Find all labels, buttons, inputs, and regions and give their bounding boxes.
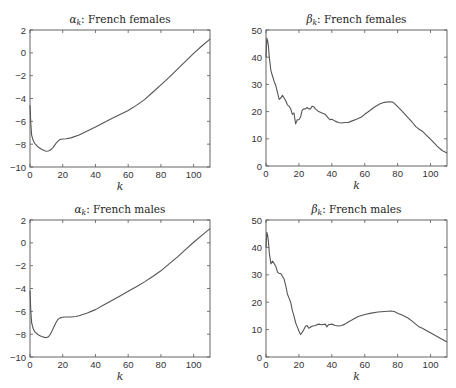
x-axis-label: k [353, 179, 360, 192]
series-line-beta-k [266, 232, 447, 342]
x-tick-label: 20 [57, 359, 68, 370]
series-line-alpha-k [30, 229, 210, 338]
chart-title: αk: French males [75, 203, 166, 217]
y-tick-label: 2 [21, 25, 26, 36]
axes-frame [30, 220, 210, 357]
x-tick-label: 80 [392, 359, 403, 370]
y-tick-label: 40 [251, 52, 262, 63]
y-tick-label: 20 [251, 106, 262, 117]
chart-title: βk: French females [305, 13, 406, 27]
x-tick-label: 80 [156, 169, 167, 180]
y-tick-label: 20 [251, 297, 262, 308]
x-tick-label: 0 [27, 359, 32, 370]
x-tick-label: 40 [90, 359, 101, 370]
x-axis-label: k [117, 370, 124, 383]
x-tick-label: 0 [263, 168, 268, 179]
y-tick-label: −6 [15, 116, 26, 127]
x-tick-label: 60 [359, 168, 370, 179]
x-tick-label: 80 [392, 168, 403, 179]
x-tick-label: 60 [123, 169, 134, 180]
y-tick-label: 40 [251, 242, 262, 253]
x-tick-label: 100 [186, 169, 202, 180]
x-tick-label: 20 [294, 168, 305, 179]
y-tick-label: 30 [251, 79, 262, 90]
y-tick-label: −10 [10, 352, 26, 363]
series-line-alpha-k [30, 39, 210, 151]
x-tick-label: 0 [263, 359, 268, 370]
y-tick-label: 50 [251, 25, 262, 36]
figure: αk: French females020406080100−10−8−6−4−… [0, 0, 456, 388]
y-tick-label: −4 [15, 283, 26, 294]
y-tick-label: −8 [15, 329, 26, 340]
x-tick-label: 40 [90, 169, 101, 180]
x-tick-label: 100 [423, 168, 439, 179]
axes-frame [266, 220, 447, 357]
y-tick-label: −6 [15, 306, 26, 317]
x-tick-label: 0 [27, 169, 32, 180]
subplot-beta-males: βk: French males02040608010001020304050k [251, 203, 447, 383]
subplot-beta-females: βk: French females0204060801000102030405… [251, 13, 447, 192]
x-tick-label: 20 [57, 169, 68, 180]
x-tick-label: 60 [359, 359, 370, 370]
y-tick-label: 2 [21, 215, 26, 226]
y-tick-label: 0 [257, 161, 262, 172]
subplot-alpha-males: αk: French males020406080100−10−8−6−4−20… [10, 203, 210, 383]
y-tick-label: 0 [21, 47, 26, 58]
x-tick-label: 40 [327, 359, 338, 370]
axes-frame [30, 30, 210, 167]
y-tick-label: 10 [251, 324, 262, 335]
y-tick-label: 30 [251, 269, 262, 280]
x-axis-label: k [353, 370, 360, 383]
y-tick-label: −4 [15, 93, 26, 104]
x-axis-label: k [117, 180, 124, 193]
y-tick-label: 50 [251, 215, 262, 226]
chart-title: βk: French males [311, 203, 402, 217]
y-tick-label: −10 [10, 162, 26, 173]
subplot-alpha-females: αk: French females020406080100−10−8−6−4−… [10, 13, 210, 193]
y-tick-label: 0 [21, 237, 26, 248]
y-tick-label: 10 [251, 133, 262, 144]
y-tick-label: −2 [15, 260, 26, 271]
chart-title: αk: French females [69, 13, 170, 27]
y-tick-label: 0 [257, 352, 262, 363]
axes-frame [266, 30, 447, 166]
series-line-beta-k [266, 38, 447, 153]
x-tick-label: 100 [423, 359, 439, 370]
x-tick-label: 40 [327, 168, 338, 179]
y-tick-label: −2 [15, 70, 26, 81]
x-tick-label: 100 [186, 359, 202, 370]
x-tick-label: 80 [156, 359, 167, 370]
x-tick-label: 60 [123, 359, 134, 370]
x-tick-label: 20 [294, 359, 305, 370]
y-tick-label: −8 [15, 139, 26, 150]
